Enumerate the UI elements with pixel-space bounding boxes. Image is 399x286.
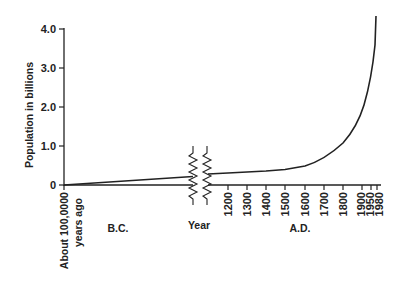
x-tick-1200: 1200: [222, 192, 234, 216]
y-tick-1: 1.0: [41, 140, 56, 152]
y-ticks: [59, 29, 64, 185]
y-tick-3: 3.0: [41, 62, 56, 74]
y-tick-labels: 4.0 3.0 2.0 1.0 0: [41, 23, 56, 191]
x-tick-1800: 1800: [337, 192, 349, 216]
x-start-label-line2: years ago: [72, 198, 84, 247]
x-tick-labels: 1200 1300 1400 1500 1600 1700 1800 1900 …: [222, 192, 385, 216]
era-label-bc: B.C.: [108, 222, 129, 234]
x-start-tick-label: 0: [58, 192, 70, 198]
population-chart: 4.0 3.0 2.0 1.0 0 Population in billions…: [0, 0, 399, 286]
axis-break-marks: [189, 146, 211, 205]
y-tick-0: 0: [50, 179, 56, 191]
x-ticks: [228, 185, 377, 190]
x-tick-1500: 1500: [279, 192, 291, 216]
y-axis-label: Population in billions: [23, 62, 35, 168]
x-tick-1600: 1600: [299, 192, 311, 216]
x-start-label-line1: About 100,000: [58, 198, 70, 269]
era-label-ad: A.D.: [290, 222, 311, 234]
y-tick-4: 4.0: [41, 23, 56, 35]
x-axis-label: Year: [188, 219, 210, 231]
population-curve-ad: [208, 16, 376, 174]
x-tick-1300: 1300: [241, 192, 253, 216]
population-curve-bc: [64, 177, 193, 186]
x-tick-1700: 1700: [318, 192, 330, 216]
y-tick-2: 2.0: [41, 101, 56, 113]
x-tick-1980: 1980: [373, 192, 385, 216]
x-tick-1400: 1400: [260, 192, 272, 216]
